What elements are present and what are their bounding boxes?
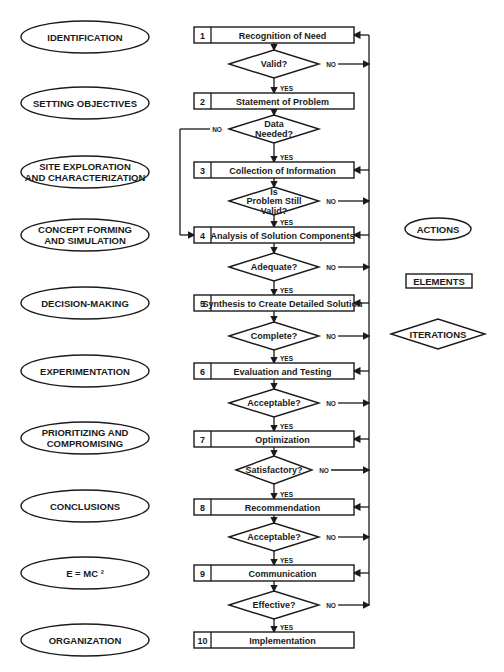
legend-elements-label: ELEMENTS: [413, 276, 465, 287]
legend-actions-label: ACTIONS: [417, 224, 460, 235]
element-label: Collection of Information: [229, 166, 336, 176]
element-box-4: 4Analysis of Solution Components: [194, 227, 355, 243]
yes-label: YES: [280, 423, 294, 430]
action-label: PRIORITIZING AND: [42, 427, 129, 438]
action-label: CONCEPT FORMING: [38, 224, 132, 235]
legend: ACTIONS ELEMENTS ITERATIONS: [391, 218, 485, 349]
decisions-column: Valid?DataNeeded?IsProblem StillValid?Ad…: [229, 50, 319, 619]
element-box-6: 6Evaluation and Testing: [194, 363, 354, 379]
element-number: 3: [200, 166, 205, 176]
element-label: Communication: [248, 569, 316, 579]
decision-diamond: DataNeeded?: [229, 115, 319, 143]
action-label: EXPERIMENTATION: [40, 366, 130, 377]
action-label: DECISION-MAKING: [41, 298, 129, 309]
yes-label: YES: [280, 355, 294, 362]
yes-label: YES: [280, 491, 294, 498]
action-label: AND SIMULATION: [44, 235, 126, 246]
element-label: Recommendation: [245, 503, 321, 513]
legend-iterations-label: ITERATIONS: [410, 329, 467, 340]
no-label: NO: [326, 400, 336, 407]
decision-label: Complete?: [251, 331, 298, 341]
yes-label: YES: [280, 557, 294, 564]
no-label: NO: [326, 198, 336, 205]
decision-diamond: Adequate?: [229, 253, 319, 281]
element-label: Optimization: [255, 435, 310, 445]
action-label: IDENTIFICATION: [47, 32, 122, 43]
element-number: 9: [200, 569, 205, 579]
element-number: 7: [200, 435, 205, 445]
element-box-1: 1Recognition of Need: [194, 27, 354, 43]
element-number: 2: [200, 97, 205, 107]
action-label: COMPROMISING: [47, 438, 124, 449]
decision-label: Effective?: [252, 600, 295, 610]
design-process-flowchart: YESNOYESNOYESNOYESNOYESNOYESNOYESNOYESNO…: [0, 0, 504, 672]
element-box-3: 3Collection of Information: [194, 162, 354, 178]
no-label: NO: [212, 126, 222, 133]
no-label: NO: [326, 602, 336, 609]
no-label: NO: [326, 264, 336, 271]
decision-label: Is: [270, 187, 278, 197]
decision-diamond: Acceptable?: [229, 523, 319, 551]
no-label: NO: [326, 61, 336, 68]
element-box-10: 10Implementation: [194, 632, 354, 648]
element-label: Recognition of Need: [239, 31, 327, 41]
element-number: 4: [200, 231, 205, 241]
decision-diamond: IsProblem StillValid?: [229, 187, 319, 216]
decision-label: Adequate?: [251, 262, 298, 272]
element-box-5: 5Synthesis to Create Detailed Solution: [194, 295, 363, 311]
decision-label: Data: [264, 119, 285, 129]
yes-label: YES: [280, 154, 294, 161]
no-label: NO: [319, 467, 329, 474]
action-label: ORGANIZATION: [49, 635, 122, 646]
decision-diamond: Acceptable?: [229, 389, 319, 417]
decision-label: Acceptable?: [247, 398, 301, 408]
element-box-2: 2Statement of Problem: [194, 93, 354, 109]
decision-diamond: Effective?: [229, 591, 319, 619]
decision-diamond: Satisfactory?: [236, 456, 312, 484]
decision-label: Acceptable?: [247, 532, 301, 542]
no-label: NO: [326, 534, 336, 541]
yes-label: YES: [280, 624, 294, 631]
action-label: SITE EXPLORATION: [39, 161, 131, 172]
element-number: 10: [197, 636, 207, 646]
element-box-9: 9Communication: [194, 565, 354, 581]
action-label: AND CHARACTERIZATION: [25, 172, 146, 183]
element-box-8: 8Recommendation: [194, 499, 354, 515]
element-label: Implementation: [249, 636, 316, 646]
decision-label: Problem Still: [246, 196, 301, 206]
decision-diamond: Valid?: [229, 50, 319, 78]
decision-label: Needed?: [255, 129, 293, 139]
element-box-7: 7Optimization: [194, 431, 354, 447]
action-label: E = MC ²: [66, 568, 104, 579]
action-label: CONCLUSIONS: [50, 501, 120, 512]
element-number: 8: [200, 503, 205, 513]
decision-diamond: Complete?: [229, 322, 319, 350]
decision-label: Satisfactory?: [245, 465, 302, 475]
yes-label: YES: [280, 287, 294, 294]
yes-label: YES: [280, 219, 294, 226]
element-label: Evaluation and Testing: [234, 367, 332, 377]
element-label: Statement of Problem: [236, 97, 329, 107]
action-label: SETTING OBJECTIVES: [33, 98, 137, 109]
decision-label: Valid?: [261, 206, 288, 216]
yes-label: YES: [280, 85, 294, 92]
element-number: 6: [200, 367, 205, 377]
element-label: Analysis of Solution Components: [210, 231, 354, 241]
decision-label: Valid?: [261, 59, 288, 69]
no-label: NO: [326, 333, 336, 340]
actions-column: IDENTIFICATIONSETTING OBJECTIVESSITE EXP…: [21, 21, 149, 656]
element-label: Synthesis to Create Detailed Solution: [202, 299, 362, 309]
element-number: 1: [200, 31, 205, 41]
